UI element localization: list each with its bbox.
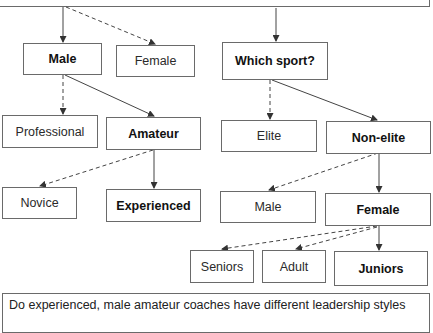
node-male-sub: Male — [220, 191, 316, 223]
research-question-text: Do experienced, male amateur coaches hav… — [9, 298, 406, 312]
node-novice: Novice — [2, 187, 77, 219]
node-male: Male — [23, 43, 102, 75]
node-label: Female — [356, 203, 399, 217]
research-question-box: Do experienced, male amateur coaches hav… — [2, 293, 430, 333]
node-female: Female — [116, 45, 195, 77]
node-label: Novice — [20, 196, 58, 210]
node-professional: Professional — [2, 115, 98, 148]
node-amateur: Amateur — [106, 117, 201, 150]
node-label: Adult — [280, 260, 309, 274]
node-label: Professional — [16, 125, 85, 139]
node-juniors: Juniors — [334, 251, 428, 286]
node-which-sport: Which sport? — [222, 42, 328, 80]
node-label: Male — [49, 52, 77, 66]
node-label: Which sport? — [235, 54, 315, 68]
node-label: Juniors — [358, 262, 403, 276]
node-label: Amateur — [128, 127, 179, 141]
node-label: Male — [254, 200, 281, 214]
node-experienced: Experienced — [106, 189, 201, 222]
node-non-elite: Non-elite — [326, 121, 431, 154]
node-label: Experienced — [116, 199, 190, 213]
node-elite: Elite — [221, 120, 317, 152]
node-label: Elite — [257, 129, 281, 143]
node-female-sub: Female — [325, 193, 431, 226]
node-seniors: Seniors — [190, 250, 254, 283]
node-label: Female — [135, 54, 177, 68]
node-label: Non-elite — [352, 131, 405, 145]
node-adult: Adult — [262, 250, 326, 283]
node-label: Seniors — [201, 260, 243, 274]
